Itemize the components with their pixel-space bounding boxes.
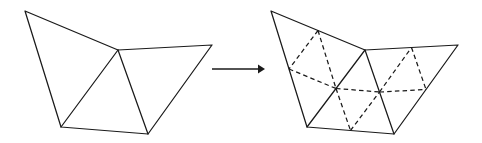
transform-arrow-group [212, 65, 265, 74]
figure-root: A coarse triangular mesh of three triang… [0, 0, 482, 143]
mesh-refinement-figure [0, 0, 482, 143]
arrow-head-icon [258, 65, 265, 74]
coarse-mesh-fill [25, 11, 212, 134]
coarse-mesh-group [25, 11, 212, 134]
refined-mesh-group [271, 11, 458, 134]
